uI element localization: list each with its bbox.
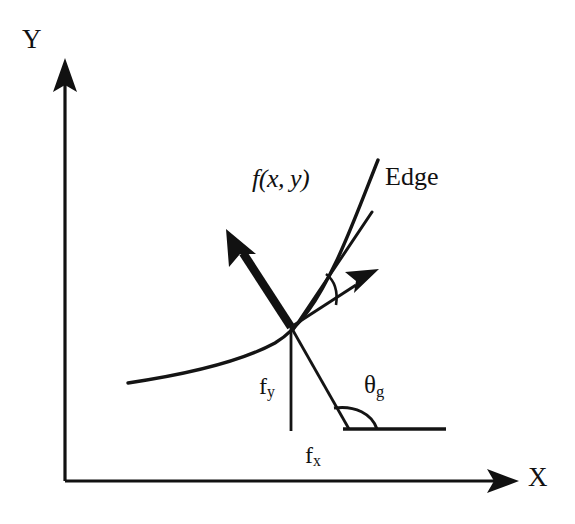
fx-slant-line (291, 327, 349, 429)
edge-label: Edge (385, 164, 438, 190)
fx-label: fx (305, 443, 321, 469)
theta-label-sub: g (376, 382, 384, 401)
gradient-vector-thin-shaft (291, 285, 356, 327)
fy-label-sub: y (267, 383, 275, 400)
theta-angle-arc-group (334, 407, 377, 429)
x-axis-label: X (528, 464, 548, 491)
gradient-vector-thin-group (291, 269, 379, 327)
theta-label-base: θ (364, 371, 376, 398)
edge-gradient-diagram: Y X f(x, y) Edge fy fx θg (0, 0, 575, 524)
fx-label-base: f (305, 442, 313, 468)
y-axis-label: Y (22, 26, 42, 53)
theta-g-label: θg (364, 372, 384, 400)
fx-label-sub: x (313, 452, 321, 469)
diagram-canvas (0, 0, 575, 524)
function-label: f(x, y) (252, 166, 309, 192)
fy-label: fy (259, 374, 275, 400)
theta-angle-arc (334, 407, 377, 429)
fy-label-base: f (259, 373, 267, 399)
axes-group (53, 58, 519, 493)
gradient-vector-bold-group (226, 229, 291, 327)
gradient-vector-bold-shaft (243, 253, 291, 327)
